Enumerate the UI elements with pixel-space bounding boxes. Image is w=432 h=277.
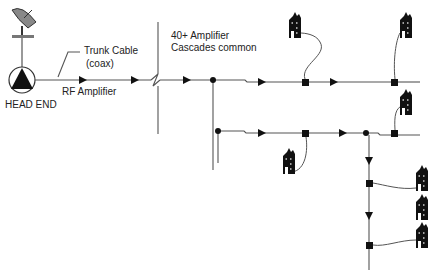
- cascade-label-line2: Cascades common: [171, 42, 257, 54]
- tap-icons: [302, 79, 398, 249]
- head-end-icon: [9, 67, 35, 93]
- amplifier-icons: [79, 76, 373, 220]
- satellite-dish-icon: [12, 9, 36, 68]
- trunk-cable-sublabel: (coax): [86, 58, 114, 70]
- splitter-icons: [210, 77, 369, 136]
- cascade-label-line1: 40+ Amplifier: [171, 30, 229, 42]
- rf-amplifier-label: RF Amplifier: [62, 86, 116, 98]
- head-end-label: HEAD END: [5, 99, 57, 111]
- drop-cables: [292, 33, 416, 245]
- trunk-cable-label: Trunk Cable: [84, 45, 138, 57]
